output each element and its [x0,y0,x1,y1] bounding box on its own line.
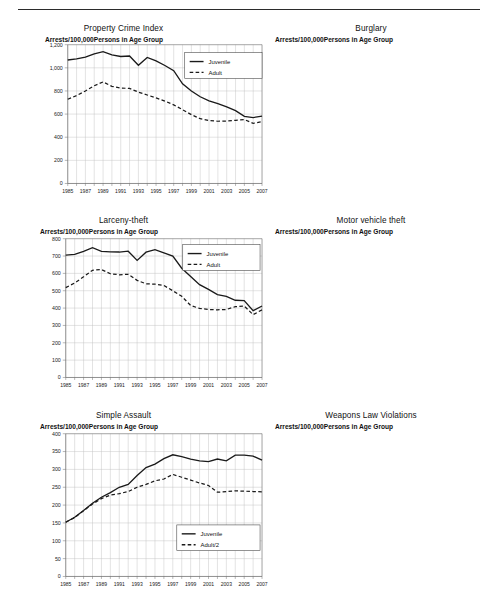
x-tick-label: 1991 [115,188,126,194]
y-tick-label: 400 [52,305,61,311]
panel-weapons-law-violations: Weapons Law Violations Arrests/100,000Pe… [247,407,495,607]
x-tick-label: 1989 [96,382,107,388]
y-tick-label: 150 [52,520,61,526]
chart-svg: 02004006008001,0001,20019851987198919911… [38,44,266,204]
legend-label: Juvenile [207,251,229,257]
panel-property-crime-index: Property Crime Index Arrests/100,000Pers… [0,20,247,212]
x-tick-label: 1991 [114,581,125,587]
x-tick-label: 2001 [203,382,214,388]
panel-burglary: Burglary Arrests/100,000Persons in Age G… [247,20,495,212]
x-tick-label: 1993 [132,581,143,587]
y-tick-label: 700 [52,253,61,259]
chart-title: Simple Assault [0,411,247,420]
legend-label: Adult [209,70,223,76]
plot-area: 0501001502002503003504001985198719891991… [36,433,266,597]
y-tick-label: 400 [54,134,63,140]
page-header-rule [18,9,480,10]
x-tick-label: 1997 [167,581,178,587]
legend-label: Adult [207,262,221,268]
y-tick-label: 600 [54,111,63,117]
y-tick-label: 100 [52,538,61,544]
x-tick-label: 1995 [149,382,160,388]
y-tick-label: 200 [52,340,61,346]
x-tick-label: 1985 [62,188,73,194]
y-tick-label: 800 [52,236,61,242]
y-tick-label: 200 [54,157,63,163]
plot-area: 02004006008001,0001,20019851987198919911… [38,44,266,204]
legend-label: Juvenile [209,59,231,65]
y-tick-label: 300 [52,322,61,328]
chart-axis-subtitle: Arrests/100,000Persons in Age Group [40,228,158,235]
x-tick-label: 1985 [60,382,71,388]
x-tick-label: 1987 [78,581,89,587]
chart-title: Weapons Law Violations [247,411,495,420]
x-tick-label: 1985 [60,581,71,587]
chart-svg: 0501001502002503003504001985198719891991… [36,433,266,597]
x-tick-label: 1991 [114,382,125,388]
x-tick-label: 1993 [132,382,143,388]
chart-svg: 0100200300400500600700800198519871989199… [36,238,266,398]
x-tick-label: 1987 [78,382,89,388]
x-tick-label: 2003 [221,581,232,587]
x-tick-label: 2001 [203,188,214,194]
y-tick-label: 200 [52,502,61,508]
x-tick-label: 1987 [80,188,91,194]
y-tick-label: 0 [58,374,61,380]
chart-title: Property Crime Index [0,24,247,33]
y-tick-label: 50 [55,556,61,562]
y-tick-label: 100 [52,357,61,363]
x-tick-label: 1995 [149,581,160,587]
x-tick-label: 1999 [185,382,196,388]
panel-motor-vehicle-theft: Motor vehicle theft Arrests/100,000Perso… [247,212,495,407]
x-tick-label: 1999 [185,581,196,587]
panel-simple-assault: Simple Assault Arrests/100,000Persons in… [0,407,247,607]
legend-label: Juvenile [201,531,223,537]
x-tick-label: 1999 [186,188,197,194]
y-tick-label: 800 [54,88,63,94]
chart-axis-subtitle: Arrests/100,000Persons in Age Group [40,423,158,430]
chart-grid: Property Crime Index Arrests/100,000Pers… [0,20,495,607]
y-tick-label: 0 [60,180,63,186]
chart-title: Burglary [247,24,495,33]
x-tick-label: 1989 [96,581,107,587]
y-tick-label: 500 [52,288,61,294]
plot-area: 0100200300400500600700800198519871989199… [36,238,266,398]
chart-axis-subtitle: Arrests/100,000Persons in Age Group [275,36,393,43]
y-tick-label: 350 [52,448,61,454]
x-tick-label: 1995 [150,188,161,194]
legend-label: Adult/2 [201,542,220,548]
chart-title: Motor vehicle theft [247,216,495,225]
y-tick-label: 0 [58,573,61,579]
x-tick-label: 1997 [168,188,179,194]
panel-larceny-theft: Larceny-theft Arrests/100,000Persons in … [0,212,247,407]
x-tick-label: 1993 [133,188,144,194]
y-tick-label: 1,000 [50,65,63,71]
y-tick-label: 300 [52,466,61,472]
chart-axis-subtitle: Arrests/100,000Persons in Age Group [275,228,393,235]
y-tick-label: 400 [52,431,61,437]
chart-axis-subtitle: Arrests/100,000Persons in Age Group [275,423,393,430]
y-tick-label: 1,200 [50,42,63,48]
x-tick-label: 2001 [203,581,214,587]
x-tick-label: 2003 [221,382,232,388]
chart-title: Larceny-theft [0,216,247,225]
x-tick-label: 1989 [97,188,108,194]
y-tick-label: 600 [52,270,61,276]
x-tick-label: 2003 [221,188,232,194]
y-tick-label: 250 [52,484,61,490]
x-tick-label: 1997 [167,382,178,388]
